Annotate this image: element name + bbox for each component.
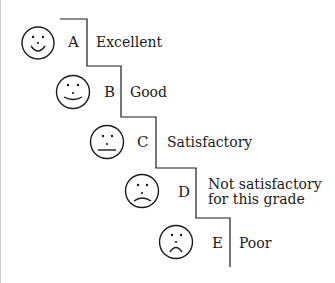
grade-letter-d: D <box>178 185 190 199</box>
grading-diagram: A Excellent B Good C Satisfactory D Not … <box>0 0 335 283</box>
face-a-big-smile-icon <box>22 27 54 59</box>
grade-description-e: Poor <box>239 236 271 250</box>
grade-letter-e: E <box>212 236 223 250</box>
grade-description-d-line1: Not satisfactory <box>208 177 322 191</box>
face-b-smile-icon <box>57 76 90 109</box>
face-c-neutral-icon <box>91 126 124 159</box>
grade-letter-b: B <box>104 85 115 99</box>
grade-description-c: Satisfactory <box>167 135 252 149</box>
face-e-frown-icon <box>160 226 193 259</box>
face-d-slight-frown-icon <box>126 175 159 208</box>
grade-description-b: Good <box>130 85 167 99</box>
grade-letter-a: A <box>68 35 79 49</box>
grade-description-d-line2: for this grade <box>208 192 305 206</box>
grade-description-a: Excellent <box>96 35 162 49</box>
grade-letter-c: C <box>137 135 148 149</box>
